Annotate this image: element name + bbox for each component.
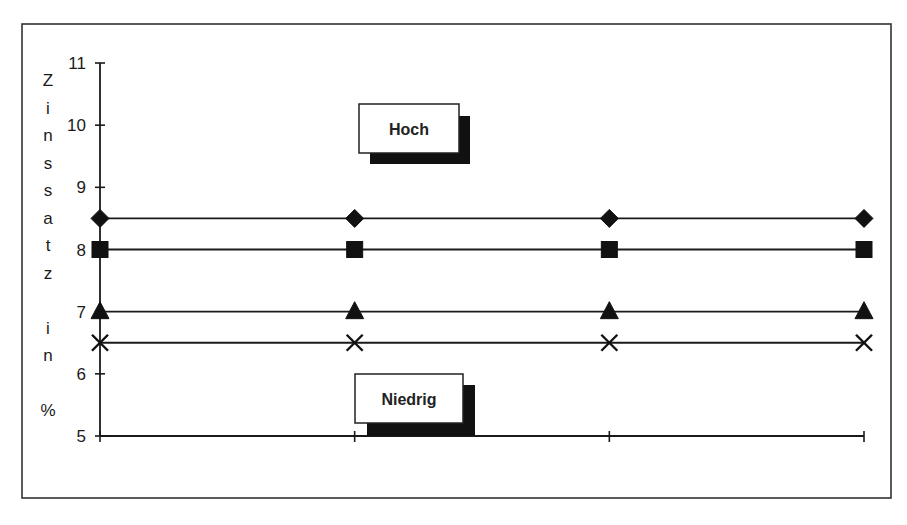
y-axis-label-char: s (44, 154, 53, 173)
series-x (92, 335, 872, 351)
y-axis-label-char: % (40, 401, 55, 420)
series-diamond (91, 209, 873, 227)
series-group (91, 209, 873, 350)
y-axis-label: Zinssatzin% (40, 71, 55, 420)
y-tick-label: 8 (77, 241, 86, 260)
y-axis-label-char: i (46, 319, 50, 338)
y-tick-label: 5 (77, 427, 86, 446)
data-point-diamond (346, 209, 364, 227)
series-square (92, 242, 872, 258)
y-tick-label: 7 (77, 303, 86, 322)
data-point-square (856, 242, 872, 258)
data-point-triangle (855, 302, 873, 319)
y-tick-label: 10 (67, 116, 86, 135)
y-axis-label-char: Z (43, 71, 53, 90)
y-axis-label-char: n (43, 346, 52, 365)
annotation-niedrig-text: Niedrig (381, 391, 436, 408)
annotation-hoch-text: Hoch (389, 121, 429, 138)
data-point-square (347, 242, 363, 258)
data-point-square (601, 242, 617, 258)
y-tick-label: 11 (68, 54, 86, 73)
data-point-square (92, 242, 108, 258)
y-axis-label-char: a (43, 209, 53, 228)
y-axis-label-char: t (46, 236, 51, 255)
annotation-hoch: Hoch (359, 104, 470, 164)
data-point-triangle (600, 302, 618, 319)
chart: Zinssatzin% 567891011 Hoch Niedrig (0, 0, 907, 525)
y-axis-label-char: z (44, 264, 53, 283)
series-triangle (91, 302, 873, 319)
y-axis-label-char: n (43, 126, 52, 145)
data-point-diamond (855, 209, 873, 227)
y-axis-label-char: s (44, 181, 53, 200)
y-axis-label-char: i (46, 99, 50, 118)
annotation-niedrig: Niedrig (355, 374, 475, 436)
data-point-diamond (600, 209, 618, 227)
data-point-diamond (91, 209, 109, 227)
y-tick-label: 9 (77, 178, 86, 197)
data-point-triangle (91, 302, 109, 319)
y-tick-label: 6 (77, 365, 86, 384)
data-point-triangle (346, 302, 364, 319)
